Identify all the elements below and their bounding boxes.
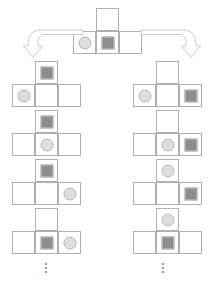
square-token (184, 89, 197, 102)
cell-bottom-right (179, 133, 202, 156)
cell-top (35, 61, 58, 84)
right-step-1 (133, 61, 202, 107)
cell-top (96, 8, 119, 31)
cell-top (156, 159, 179, 182)
left-step-3 (12, 159, 81, 205)
cell-bottom-left (12, 133, 35, 156)
cell-bottom-left (133, 84, 156, 107)
right-step-4 (133, 208, 202, 254)
left-step-2 (12, 110, 81, 156)
branch-right-arrow-icon (140, 26, 202, 60)
cell-bottom-middle (156, 231, 179, 254)
cell-bottom-left (12, 231, 35, 254)
cell-bottom-right (119, 31, 142, 54)
square-token (40, 115, 53, 128)
cell-bottom-middle (35, 182, 58, 205)
cell-bottom-middle (35, 231, 58, 254)
square-token (184, 138, 197, 151)
cell-bottom-right (58, 231, 81, 254)
square-token (40, 236, 53, 249)
cell-top (35, 208, 58, 231)
branch-right-arrow (140, 26, 202, 64)
cell-top (35, 110, 58, 133)
square-token (184, 187, 197, 200)
square-token (161, 236, 174, 249)
cell-bottom-left (12, 84, 35, 107)
cell-bottom-right (58, 182, 81, 205)
cell-bottom-middle (96, 31, 119, 54)
right-step-2 (133, 110, 202, 156)
square-token (40, 164, 53, 177)
continuation-ellipsis: ••• (40, 262, 52, 274)
square-token (101, 36, 114, 49)
cell-bottom-left (133, 133, 156, 156)
circle-token (161, 164, 174, 177)
cell-bottom-middle (156, 182, 179, 205)
cell-bottom-right (58, 84, 81, 107)
cell-bottom-middle (156, 84, 179, 107)
circle-token (40, 138, 53, 151)
cell-top (156, 110, 179, 133)
circle-token (63, 236, 76, 249)
cell-bottom-middle (35, 133, 58, 156)
branch-left-arrow-icon (22, 26, 84, 60)
cell-top (35, 159, 58, 182)
right-step-3 (133, 159, 202, 205)
cell-bottom-right (58, 133, 81, 156)
cell-bottom-left (133, 231, 156, 254)
branch-left-arrow (22, 26, 84, 64)
circle-token (161, 138, 174, 151)
cell-bottom-right (179, 182, 202, 205)
cell-bottom-middle (35, 84, 58, 107)
cell-bottom-middle (156, 133, 179, 156)
continuation-ellipsis: ••• (157, 262, 169, 274)
circle-token (63, 187, 76, 200)
left-step-4 (12, 208, 81, 254)
cell-bottom-right (179, 231, 202, 254)
circle-token (161, 213, 174, 226)
square-token (40, 66, 53, 79)
circle-token (138, 89, 151, 102)
diagram-canvas: •••••• (0, 0, 215, 285)
cell-bottom-left (12, 182, 35, 205)
cell-bottom-left (133, 182, 156, 205)
cell-bottom-right (179, 84, 202, 107)
circle-token (17, 89, 30, 102)
cell-top (156, 208, 179, 231)
left-step-1 (12, 61, 81, 107)
cell-top (156, 61, 179, 84)
